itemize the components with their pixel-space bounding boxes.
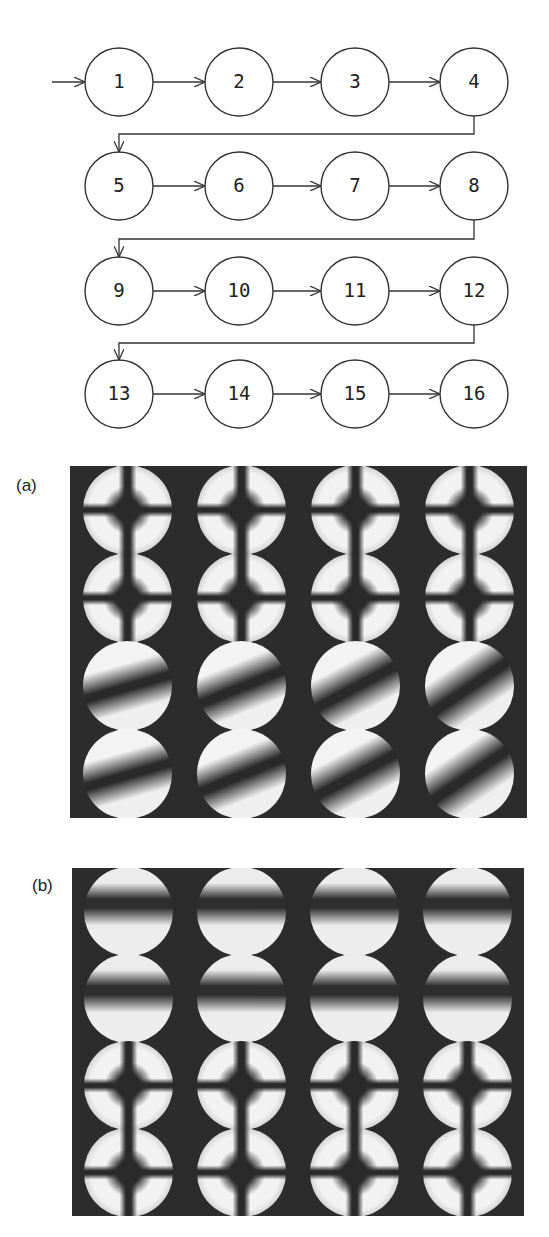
node-label: 2 [233,70,244,92]
interference-pattern-panel-a [70,466,527,818]
interference-figure [311,641,400,730]
diagram-node-16: 16 [440,360,508,428]
diagram-node-4: 4 [440,48,508,116]
panel-a-label: (a) [16,476,37,496]
node-label: 6 [233,174,244,196]
interference-figure [84,1041,172,1129]
wrap-arrow [119,220,474,257]
sequence-flow-diagram: 12345678910111213141516 [0,0,549,450]
interference-figure [310,868,398,956]
interference-figure [84,954,172,1042]
diagram-nodes: 12345678910111213141516 [85,48,508,428]
node-label: 13 [108,382,131,404]
node-label: 8 [468,174,479,196]
interference-figure [425,553,514,642]
diagram-node-1: 1 [85,48,153,116]
diagram-node-2: 2 [205,48,273,116]
interference-figure [197,954,285,1042]
diagram-node-10: 10 [205,257,273,325]
interference-figure [310,1128,398,1216]
node-label: 10 [228,279,251,301]
interference-figure [83,641,172,730]
interference-figure [197,1128,285,1216]
node-label: 15 [344,382,367,404]
node-label: 1 [113,70,124,92]
diagram-arrows [52,82,474,394]
interference-figure [83,553,172,642]
interference-figure [423,954,511,1042]
node-label: 9 [113,279,124,301]
interference-figure [84,868,172,956]
interference-figure [423,1041,511,1129]
interference-figure [310,954,398,1042]
interference-figure [310,1041,398,1129]
node-label: 4 [468,70,479,92]
node-label: 5 [113,174,124,196]
wrap-arrow [119,116,474,152]
interference-figure [425,729,514,818]
interference-figure [197,868,285,956]
interference-figure [311,553,400,642]
diagram-node-15: 15 [321,360,389,428]
interference-figure [423,868,511,956]
node-label: 14 [228,382,251,404]
wrap-arrow [119,325,474,360]
interference-figure [197,729,286,818]
node-label: 7 [349,174,360,196]
diagram-node-3: 3 [321,48,389,116]
interference-figure [197,553,286,642]
interference-figure [83,466,172,555]
interference-figure [425,466,514,555]
interference-figure [311,466,400,555]
panel-b-label: (b) [32,876,53,896]
diagram-node-14: 14 [205,360,273,428]
node-label: 11 [344,279,367,301]
diagram-node-6: 6 [205,152,273,220]
diagram-node-8: 8 [440,152,508,220]
node-label: 12 [463,279,486,301]
interference-figure [425,641,514,730]
interference-figure [83,729,172,818]
interference-figure [197,641,286,730]
interference-figure [311,729,400,818]
diagram-node-11: 11 [321,257,389,325]
interference-pattern-panel-b [72,868,524,1216]
diagram-node-12: 12 [440,257,508,325]
diagram-node-7: 7 [321,152,389,220]
diagram-node-5: 5 [85,152,153,220]
node-label: 3 [349,70,360,92]
interference-figure [197,1041,285,1129]
node-label: 16 [463,382,486,404]
interference-figure [423,1128,511,1216]
interference-figure [84,1128,172,1216]
diagram-node-9: 9 [85,257,153,325]
diagram-node-13: 13 [85,360,153,428]
interference-figure [197,466,286,555]
